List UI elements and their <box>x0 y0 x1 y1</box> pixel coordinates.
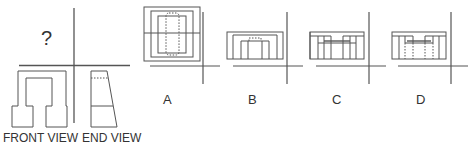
option-a-drawing <box>144 7 220 84</box>
option-d-label[interactable]: D <box>416 93 425 106</box>
front-view-drawing <box>12 71 67 127</box>
unknown-view-question-mark: ? <box>41 28 52 48</box>
option-d-drawing <box>392 12 468 84</box>
option-a-label[interactable]: A <box>163 93 172 106</box>
end-view-label: END VIEW <box>82 132 141 144</box>
end-view-drawing <box>91 71 117 127</box>
option-b-label[interactable]: B <box>248 93 257 106</box>
option-b-drawing <box>227 12 303 84</box>
option-c-drawing <box>310 12 386 84</box>
option-c-label[interactable]: C <box>332 93 341 106</box>
front-view-label: FRONT VIEW <box>3 132 78 144</box>
